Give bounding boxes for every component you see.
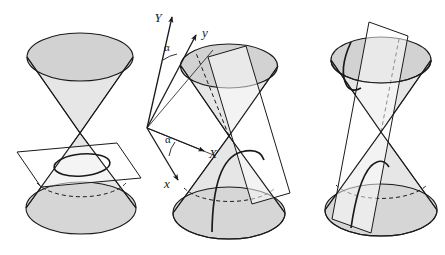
axis-Y-line	[147, 17, 172, 128]
lower-base-ellipse-1	[26, 182, 136, 234]
cutting-plane-ellipse	[17, 143, 141, 187]
panel-hyperbola	[325, 22, 437, 236]
panel-ellipse	[17, 33, 141, 234]
axis-y-line	[147, 35, 196, 128]
angle-arc-upper	[163, 54, 177, 60]
upper-cap-ellipse-1	[27, 33, 133, 81]
axis-label-x: x	[163, 176, 170, 191]
conic-sections-svg: Y y X x α α	[0, 0, 445, 255]
panel-parabola: Y y X x α α	[147, 10, 290, 239]
axis-label-y: y	[200, 25, 208, 40]
plane-outline-1	[17, 143, 141, 187]
axis-label-Y: Y	[154, 10, 163, 25]
upper-nappe-1	[27, 33, 133, 133]
conic-sections-figure: Y y X x α α	[0, 0, 445, 255]
axis-x-line	[147, 128, 178, 180]
angle-label-upper: α	[164, 41, 170, 53]
angle-label-lower: α	[165, 133, 171, 145]
axis-label-X: X	[208, 146, 218, 161]
axes-frame-line-2	[147, 128, 216, 156]
